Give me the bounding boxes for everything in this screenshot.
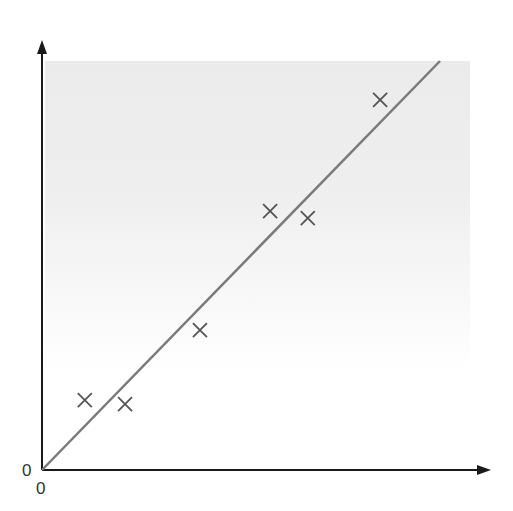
- scatter-chart: 0 0: [0, 0, 513, 511]
- y-origin-label: 0: [22, 461, 31, 480]
- x-origin-label: 0: [36, 479, 45, 498]
- data-point-x-marker-icon: [78, 393, 92, 407]
- shaded-region: [45, 61, 470, 371]
- data-point-x-marker-icon: [118, 397, 132, 411]
- y-axis-arrow-icon: [37, 40, 47, 54]
- x-axis-arrow-icon: [477, 465, 491, 475]
